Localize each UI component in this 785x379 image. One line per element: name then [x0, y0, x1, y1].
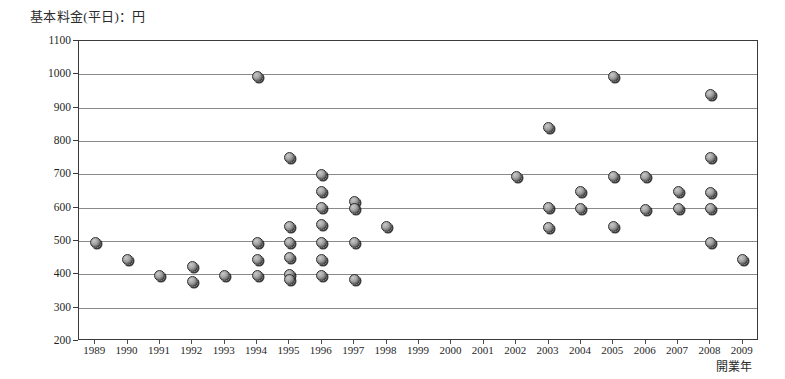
data-point	[511, 171, 522, 182]
data-point	[316, 219, 327, 230]
y-axis-tick-mark	[73, 307, 78, 308]
data-point	[608, 171, 619, 182]
x-axis-tick-label: 1997	[342, 344, 364, 356]
x-axis-title: 開業年	[716, 357, 752, 375]
x-axis-tick-label: 2006	[634, 344, 656, 356]
data-point	[543, 202, 554, 213]
data-point	[381, 221, 392, 232]
x-axis-tick-mark	[612, 340, 613, 344]
data-point	[608, 71, 619, 82]
x-axis-tick-mark	[677, 340, 678, 344]
x-axis-tick-label: 2008	[698, 344, 720, 356]
x-axis-tick-mark	[645, 340, 646, 344]
x-axis-tick-mark	[256, 340, 257, 344]
data-point	[284, 152, 295, 163]
data-point	[187, 276, 198, 287]
y-axis-tick-mark	[73, 173, 78, 174]
y-axis-tick-mark	[73, 73, 78, 74]
y-axis-tick-label: 200	[27, 334, 71, 346]
data-point	[349, 274, 360, 285]
x-axis-tick-mark	[386, 340, 387, 344]
gridline-y	[79, 108, 757, 109]
data-point	[673, 186, 684, 197]
gridline-y	[79, 174, 757, 175]
data-point	[284, 252, 295, 263]
data-point	[316, 237, 327, 248]
data-point	[284, 237, 295, 248]
chart-title: 基本料金(平日)：円	[30, 6, 146, 25]
data-point	[316, 186, 327, 197]
x-axis-tick-mark	[191, 340, 192, 344]
x-axis-tick-mark	[709, 340, 710, 344]
data-point	[252, 237, 263, 248]
data-point	[316, 254, 327, 265]
x-axis-tick-mark	[418, 340, 419, 344]
data-point	[252, 254, 263, 265]
data-point	[705, 203, 716, 214]
data-point	[316, 270, 327, 281]
data-point	[154, 270, 165, 281]
data-point	[543, 122, 554, 133]
data-point	[705, 89, 716, 100]
x-axis-tick-label: 2009	[731, 344, 753, 356]
data-point	[705, 152, 716, 163]
data-point	[737, 254, 748, 265]
gridline-y	[79, 141, 757, 142]
x-axis-tick-label: 2005	[601, 344, 623, 356]
data-point	[284, 221, 295, 232]
x-axis-tick-label: 1999	[407, 344, 429, 356]
data-point	[640, 204, 651, 215]
x-axis-tick-label: 1990	[116, 344, 138, 356]
x-axis-tick-mark	[450, 340, 451, 344]
data-point	[316, 202, 327, 213]
gridline-y	[79, 208, 757, 209]
data-point	[349, 203, 360, 214]
x-axis-tick-mark	[353, 340, 354, 344]
x-axis-tick-label: 1989	[83, 344, 105, 356]
data-point	[284, 274, 295, 285]
data-point	[673, 203, 684, 214]
x-axis-tick-mark	[224, 340, 225, 344]
gridline-y	[79, 74, 757, 75]
y-axis-tick-label: 1000	[27, 67, 71, 79]
gridline-y	[79, 308, 757, 309]
y-axis-tick-label: 700	[27, 167, 71, 179]
x-axis-tick-mark	[288, 340, 289, 344]
data-point	[187, 261, 198, 272]
data-point	[705, 237, 716, 248]
y-axis-tick-mark	[73, 140, 78, 141]
x-axis-tick-label: 1994	[245, 344, 267, 356]
data-point	[252, 71, 263, 82]
x-axis-tick-label: 1998	[375, 344, 397, 356]
x-axis-tick-mark	[742, 340, 743, 344]
y-axis-tick-label: 600	[27, 201, 71, 213]
plot-area	[78, 40, 758, 340]
y-axis-tick-mark	[73, 40, 78, 41]
gridline-y	[79, 274, 757, 275]
x-axis-tick-label: 1993	[213, 344, 235, 356]
x-axis-tick-label: 2007	[666, 344, 688, 356]
data-point	[122, 254, 133, 265]
y-axis-tick-mark	[73, 240, 78, 241]
x-axis-tick-label: 1992	[180, 344, 202, 356]
data-point	[90, 237, 101, 248]
x-axis-tick-label: 2002	[504, 344, 526, 356]
data-point	[575, 203, 586, 214]
x-axis-tick-mark	[548, 340, 549, 344]
y-axis-tick-label: 300	[27, 301, 71, 313]
data-point	[705, 187, 716, 198]
data-point	[543, 222, 554, 233]
x-axis-tick-mark	[580, 340, 581, 344]
data-point	[640, 171, 651, 182]
y-axis-tick-mark	[73, 107, 78, 108]
x-axis-tick-label: 2001	[472, 344, 494, 356]
x-axis-tick-label: 2004	[569, 344, 591, 356]
x-axis-tick-label: 1991	[148, 344, 170, 356]
data-point	[575, 186, 586, 197]
y-axis-tick-label: 800	[27, 134, 71, 146]
x-axis-tick-mark	[94, 340, 95, 344]
y-axis-tick-label: 900	[27, 101, 71, 113]
x-axis-tick-mark	[321, 340, 322, 344]
x-axis-tick-mark	[127, 340, 128, 344]
x-axis-tick-label: 1996	[310, 344, 332, 356]
